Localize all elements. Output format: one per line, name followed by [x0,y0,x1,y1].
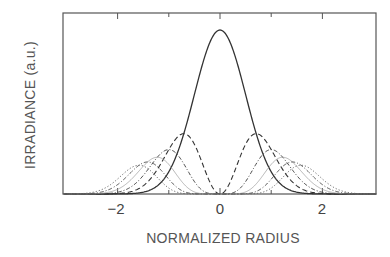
curve-n0 [64,30,376,194]
x-axis-title: NORMALIZED RADIUS [146,230,300,246]
y-axis-title: IRRADIANCE (a.u.) [22,41,38,169]
curve-n2 [64,150,376,194]
plot-curves [64,30,376,194]
x-tick-label-2: 2 [318,200,326,217]
axis-ticks [118,13,323,194]
irradiance-chart: −2 0 2 NORMALIZED RADIUS IRRADIANCE (a.u… [0,0,390,257]
x-tick-label-neg2: −2 [107,200,124,217]
plot-frame [63,13,376,194]
x-tick-label-0: 0 [216,200,224,217]
